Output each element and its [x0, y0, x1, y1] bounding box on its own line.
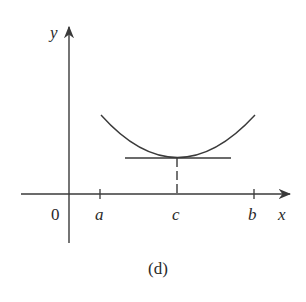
origin-label: 0: [51, 205, 60, 224]
x-axis-label: x: [277, 205, 286, 224]
figure-caption: (d): [148, 259, 168, 278]
diagram-canvas: y x 0 a c b (d): [0, 0, 306, 302]
tick-label-c: c: [172, 205, 180, 224]
tick-label-a: a: [95, 205, 104, 224]
u-curve: [101, 115, 255, 158]
tick-label-b: b: [248, 205, 257, 224]
y-axis-label: y: [48, 23, 58, 42]
